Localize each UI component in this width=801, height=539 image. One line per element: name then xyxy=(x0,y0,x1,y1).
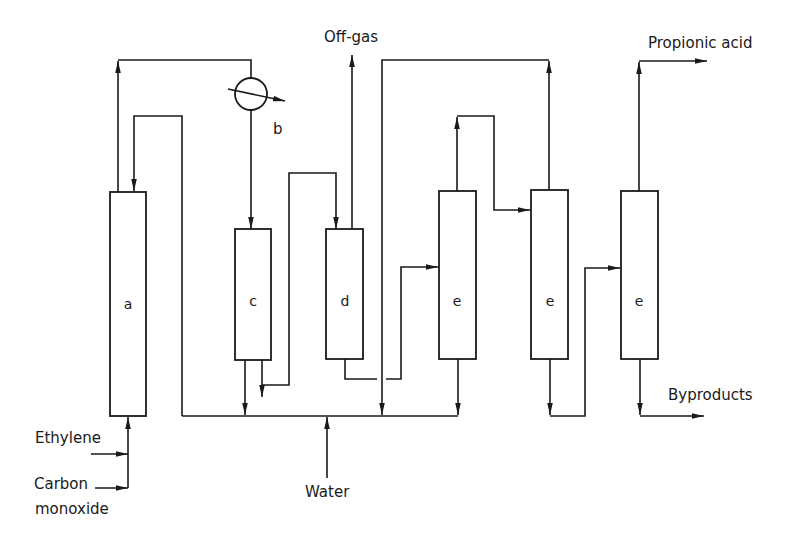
d-bottom-line xyxy=(345,359,377,379)
d-to-e1-line xyxy=(386,267,438,379)
heat-exchanger-b: b xyxy=(228,78,285,138)
vessel-e3-label: e xyxy=(635,293,644,309)
vessel-c-label: c xyxy=(249,293,257,309)
vessel-a-label: a xyxy=(124,296,133,312)
feed-lines xyxy=(91,417,128,488)
vessel-e1: e xyxy=(439,191,476,359)
vessel-d: d xyxy=(326,229,363,359)
c-to-d-line xyxy=(262,173,336,385)
byproducts-label: Byproducts xyxy=(668,386,753,404)
carbon-monoxide-label-line2: monoxide xyxy=(35,500,109,518)
carbon-monoxide-label-line1: Carbon xyxy=(34,475,88,493)
process-flow-diagram: b Off-gas Water Propionic acid Byproduct… xyxy=(0,0,801,539)
vessel-e2: e xyxy=(531,190,568,359)
off-gas-label: Off-gas xyxy=(324,28,378,46)
vessel-c: c xyxy=(235,229,271,360)
propionic-acid-label: Propionic acid xyxy=(648,34,752,52)
vessel-e1-label: e xyxy=(453,293,462,309)
vessel-a: a xyxy=(110,192,146,416)
water-label: Water xyxy=(305,483,350,501)
vessel-e3: e xyxy=(621,191,658,359)
vessel-d-label: d xyxy=(341,293,350,309)
ethylene-label: Ethylene xyxy=(35,429,101,447)
heat-exchanger-label: b xyxy=(273,120,283,138)
vessel-e2-label: e xyxy=(546,293,555,309)
